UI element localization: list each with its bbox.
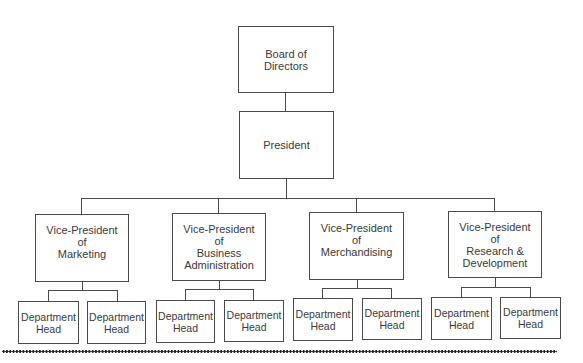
department-head-box: Department Head	[500, 297, 561, 339]
dept-label: Department Head	[158, 310, 213, 334]
department-head-box: Department Head	[293, 298, 353, 341]
department-head-box: Department Head	[87, 301, 146, 344]
dept-label: Department Head	[89, 311, 144, 335]
department-head-box: Department Head	[156, 300, 215, 343]
connector-vp1	[81, 198, 82, 214]
connector-vp2-horizontal	[185, 289, 254, 290]
dept-label: Department Head	[365, 307, 420, 331]
vp-label: Vice-President of Business Administratio…	[183, 223, 254, 271]
connector-board-president	[285, 92, 286, 112]
department-head-box: Department Head	[224, 300, 284, 342]
dotted-divider	[2, 350, 557, 353]
dept-label: Department Head	[227, 309, 282, 333]
dept-label: Department Head	[434, 307, 489, 331]
connector-vp3	[356, 198, 357, 212]
connector-vp-horizontal	[81, 198, 495, 199]
dept-label: Department Head	[296, 308, 351, 332]
connector-vp1-horizontal	[48, 290, 118, 291]
vp-label: Vice-President of Marketing	[46, 224, 117, 260]
connector-president-down	[286, 178, 287, 199]
connector-dept3	[185, 289, 186, 300]
vp-research-development-box: Vice-President of Research & Development	[448, 211, 542, 278]
board-label: Board of Directors	[264, 48, 308, 72]
dept-label: Department Head	[21, 311, 76, 335]
president-label: President	[263, 139, 309, 151]
vp-merchandising-box: Vice-President of Merchandising	[309, 212, 404, 280]
dept-label: Department Head	[503, 306, 558, 330]
department-head-box: Department Head	[431, 297, 492, 340]
connector-dept1	[48, 290, 49, 301]
connector-vp2	[218, 198, 219, 213]
president-box: President	[239, 111, 334, 179]
connector-dept4	[253, 289, 254, 300]
department-head-box: Department Head	[362, 298, 422, 340]
board-of-directors-box: Board of Directors	[238, 26, 334, 93]
connector-dept5	[322, 288, 323, 298]
vp-label: Vice-President of Research & Development	[459, 221, 530, 269]
connector-vp4	[494, 198, 495, 211]
vp-marketing-box: Vice-President of Marketing	[35, 214, 129, 282]
connector-vp3-horizontal	[322, 288, 392, 289]
connector-vp4-horizontal	[461, 287, 531, 288]
connector-dept8	[530, 287, 531, 297]
connector-dept7	[461, 287, 462, 297]
connector-vp4-down	[495, 277, 496, 287]
vp-business-admin-box: Vice-President of Business Administratio…	[172, 213, 266, 281]
vp-label: Vice-President of Merchandising	[321, 222, 393, 258]
department-head-box: Department Head	[18, 301, 79, 344]
connector-dept2	[117, 290, 118, 301]
connector-dept6	[391, 288, 392, 298]
